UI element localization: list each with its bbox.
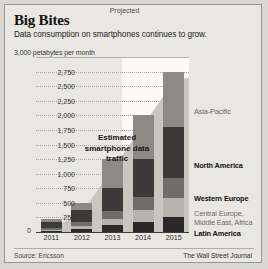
bar-segment	[133, 159, 154, 197]
x-axis-tick-label: 2011	[36, 233, 66, 242]
legend-label-line: Middle East, Africa	[194, 219, 252, 228]
chart-annotation: Estimatedsmartphone datatraffic	[70, 133, 164, 165]
bar-segment	[102, 219, 123, 225]
y-axis-tick-label: 1,000	[43, 171, 75, 178]
chart-subtitle: Data consumption on smartphones continue…	[14, 30, 254, 39]
bar-segment	[163, 72, 184, 127]
y-axis-tick-label: 2,500	[43, 83, 75, 90]
legend-item-western[interactable]: Western Europe	[194, 195, 248, 204]
bar-2015[interactable]	[163, 72, 184, 232]
bar-segment	[163, 178, 184, 198]
brand-label: The Wall Street Journal	[183, 252, 252, 259]
bar-segment	[71, 222, 92, 226]
y-axis-tick-label: 1,750	[43, 127, 75, 134]
bar-segment	[133, 210, 154, 222]
legend-label-line: North America	[194, 162, 243, 171]
chart-card: Big Bites Data consumption on smartphone…	[4, 4, 262, 263]
legend-label-line: Western Europe	[194, 195, 248, 204]
bar-segment	[102, 225, 123, 232]
y-axis-tick-label: 1,500	[43, 142, 75, 149]
bar-segment	[133, 222, 154, 233]
bar-segment	[41, 228, 62, 230]
y-axis-tick-label: 2,000	[43, 112, 75, 119]
x-axis-tick-label: 2013	[98, 233, 128, 242]
annotation-line: traffic	[70, 154, 164, 165]
y-axis-tick-label: 250	[43, 214, 75, 221]
page-title: Big Bites	[14, 12, 69, 29]
bar-segment	[163, 127, 184, 178]
annotation-line: smartphone data	[70, 144, 164, 155]
legend-item-north[interactable]: North America	[194, 162, 243, 171]
bar-segment	[41, 230, 62, 231]
x-axis-ticks: 20112012201320142015	[36, 233, 189, 243]
bar-segment	[41, 222, 62, 228]
y-axis-zero-label: 0	[27, 227, 31, 234]
bar-segment	[102, 211, 123, 219]
source-label: Source: Ericsson	[14, 252, 64, 259]
y-axis-tick-label: 2,250	[43, 98, 75, 105]
legend-label-line: Latin America	[194, 230, 241, 239]
bar-segment	[71, 226, 92, 229]
x-axis-tick-label: 2014	[128, 233, 158, 242]
footer-divider	[14, 248, 254, 249]
bar-segment	[102, 188, 123, 211]
y-axis-tick-label: 500	[43, 200, 75, 207]
y-axis-unit-label: 3,000 petabytes per month	[14, 49, 95, 56]
annotation-line: Estimated	[70, 133, 164, 144]
legend-label-line: Asia-Pacific	[194, 108, 231, 117]
y-axis-tick-label: 750	[43, 185, 75, 192]
bar-2013[interactable]	[102, 159, 123, 232]
legend-item-central[interactable]: Central Europe,Middle East, Africa	[194, 210, 252, 227]
bar-segment	[133, 197, 154, 210]
bar-segment	[163, 217, 184, 232]
y-axis-tick-label: 1,250	[43, 156, 75, 163]
bar-segment	[163, 198, 184, 217]
legend-item-asia-pacific[interactable]: Asia-Pacific	[194, 108, 231, 117]
x-axis-tick-label: 2012	[67, 233, 97, 242]
x-axis-tick-label: 2015	[159, 233, 189, 242]
y-axis-tick-label: 2,750	[43, 69, 75, 76]
legend-item-latin[interactable]: Latin America	[194, 230, 241, 239]
projected-label: Projected	[91, 7, 158, 14]
